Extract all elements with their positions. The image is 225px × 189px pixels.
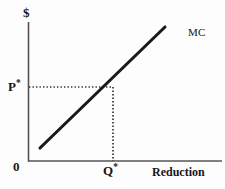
quantity-axis-tick-label: Q*: [103, 164, 118, 177]
mc-curve-label: MC: [188, 27, 206, 38]
price-label-base: P: [8, 79, 16, 94]
price-label-star: *: [16, 78, 21, 88]
price-axis-tick-label: P*: [8, 80, 21, 93]
origin-label: 0: [13, 160, 20, 173]
quantity-label-star: *: [113, 162, 118, 172]
y-axis-label: $: [23, 6, 30, 19]
quantity-label-base: Q: [103, 163, 113, 178]
marginal-cost-chart: $ P* 0 Q* Reduction MC: [0, 0, 225, 189]
x-axis-label: Reduction: [152, 166, 205, 178]
mc-curve: [40, 27, 165, 148]
